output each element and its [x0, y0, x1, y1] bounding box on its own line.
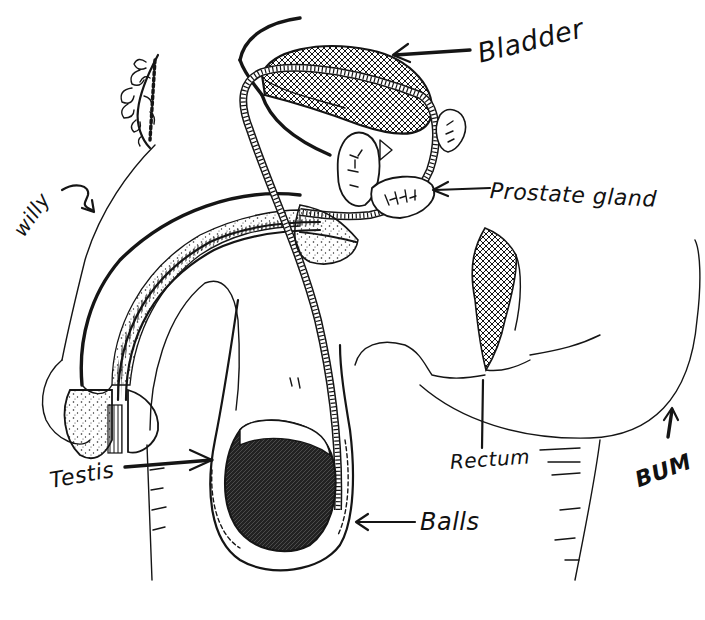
rectum	[472, 228, 530, 371]
thigh-inner-line	[150, 281, 239, 430]
buttock	[420, 240, 700, 438]
bladder	[240, 18, 432, 134]
label-balls: Balls	[420, 508, 480, 536]
anatomy-diagram: Bladder Prostate gland willy Testis Rect…	[0, 0, 705, 620]
thigh-back	[540, 440, 600, 580]
seminal-vesicle	[436, 110, 465, 152]
perineum-contour	[355, 342, 485, 378]
penis	[43, 194, 320, 459]
testis	[225, 420, 336, 551]
illustration-canvas	[0, 0, 705, 620]
prostate-gland	[338, 133, 434, 218]
pubic-hair	[121, 55, 158, 148]
